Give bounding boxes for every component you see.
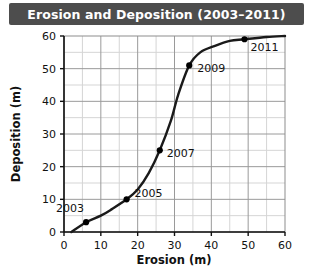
x-tick-label: 60 xyxy=(278,239,292,252)
chart-plot-area: 01020304050600102030405060 2003200520072… xyxy=(0,0,313,269)
x-tick-label: 20 xyxy=(131,239,145,252)
data-point xyxy=(241,36,247,42)
data-point-label: 2005 xyxy=(135,187,163,200)
y-tick-label: 10 xyxy=(42,193,56,206)
y-tick-label: 30 xyxy=(42,128,56,141)
y-tick-label: 60 xyxy=(42,30,56,43)
y-tick-label: 20 xyxy=(42,161,56,174)
x-tick-label: 30 xyxy=(168,239,182,252)
data-point-label: 2007 xyxy=(167,147,195,160)
y-tick-label: 50 xyxy=(42,63,56,76)
data-point xyxy=(157,147,163,153)
data-point xyxy=(83,219,89,225)
x-axis-title: Erosion (m) xyxy=(137,253,212,267)
x-tick-label: 50 xyxy=(241,239,255,252)
data-point xyxy=(186,62,192,68)
x-tick-label: 40 xyxy=(204,239,218,252)
y-tick-label: 40 xyxy=(42,95,56,108)
y-tick-label: 0 xyxy=(49,226,56,239)
tick-labels: 01020304050600102030405060 xyxy=(42,30,292,252)
data-point-label: 2011 xyxy=(250,41,278,54)
x-tick-label: 10 xyxy=(94,239,108,252)
axis-ticks xyxy=(60,36,285,236)
data-point-label: 2003 xyxy=(56,202,84,215)
grid-major xyxy=(64,36,285,232)
x-tick-label: 0 xyxy=(61,239,68,252)
y-axis-title: Deposition (m) xyxy=(9,86,23,182)
chart-figure: Erosion and Deposition (2003–2011) 01020… xyxy=(0,0,313,269)
data-point-label: 2009 xyxy=(197,62,225,75)
data-point xyxy=(124,196,130,202)
